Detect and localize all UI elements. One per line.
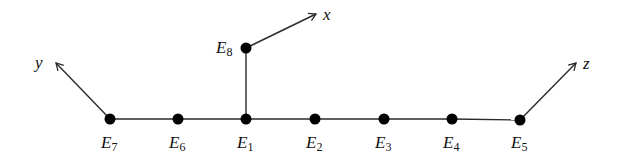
node-e6 xyxy=(173,114,184,125)
arrow-e5-z xyxy=(520,63,576,120)
label-e1: E1 xyxy=(236,133,253,154)
node-e5 xyxy=(515,115,526,126)
edge-e4-e5 xyxy=(452,119,520,120)
label-z: z xyxy=(582,54,590,73)
dynkin-diagram: E7 E6 E1 E2 E3 E4 E5 E8 x y z xyxy=(0,0,623,164)
arrow-e7-y xyxy=(56,63,110,119)
label-e7: E7 xyxy=(100,133,117,154)
node-e8 xyxy=(241,43,252,54)
node-e1 xyxy=(241,114,252,125)
node-e3 xyxy=(379,114,390,125)
node-e7 xyxy=(105,114,116,125)
label-x: x xyxy=(322,5,331,24)
label-e3: E3 xyxy=(374,133,391,154)
arrow-e8-x xyxy=(246,14,316,48)
node-e4 xyxy=(447,114,458,125)
node-e2 xyxy=(310,114,321,125)
label-e4: E4 xyxy=(442,133,459,154)
label-y: y xyxy=(33,53,43,72)
label-e2: E2 xyxy=(305,133,322,154)
label-e6: E6 xyxy=(168,133,185,154)
label-e5: E5 xyxy=(510,133,527,154)
label-e8: E8 xyxy=(215,38,232,59)
